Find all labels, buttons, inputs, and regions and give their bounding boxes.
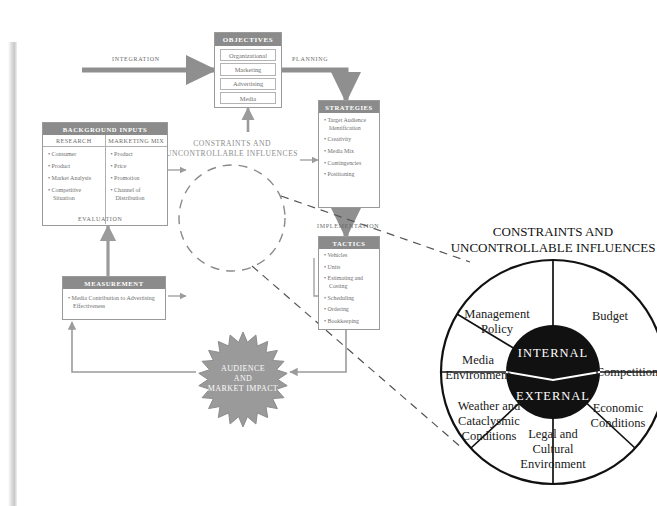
tactics-item: Units	[323, 264, 377, 272]
marketing-mix-item: Promotion	[110, 174, 166, 182]
objectives-header: OBJECTIVES	[215, 33, 281, 46]
research-item: Market Analysis	[47, 174, 103, 182]
marketing-mix-item: Price	[110, 162, 166, 170]
strategies-item: Contingencies	[323, 160, 377, 168]
starburst-line3: MARKET IMPACT	[208, 384, 278, 393]
starburst-line1: AUDIENCE	[221, 364, 265, 373]
connector-label-planning: PLANNING	[292, 56, 328, 62]
tactics-header: TACTICS	[319, 237, 379, 249]
objectives-item-organizational[interactable]: Organizational	[220, 49, 276, 61]
marketing-mix-item: Channel of Distribution	[110, 186, 166, 202]
tactics-item: Scheduling	[323, 295, 377, 303]
tactics-item: Ordering	[323, 306, 377, 314]
research-item: Consumer	[47, 150, 103, 158]
connector-label-integration: INTEGRATION	[112, 56, 160, 62]
tactics-item: Bookkeeping	[323, 318, 377, 326]
measurement-header: MEASUREMENT	[63, 277, 165, 289]
research-item: Competitive Situation	[47, 186, 103, 202]
starburst-line2: AND	[234, 374, 253, 383]
measurement-box[interactable]: MEASUREMENT Media Contribution to Advert…	[62, 276, 166, 320]
background-inputs-box[interactable]: BACKGROUND INPUTS RESEARCH Consumer Prod…	[42, 122, 168, 226]
objectives-box[interactable]: OBJECTIVES Organizational Marketing Adve…	[214, 32, 282, 108]
background-inputs-header: BACKGROUND INPUTS	[43, 123, 167, 135]
strategies-box[interactable]: STRATEGIES Target Audience Identificatio…	[318, 100, 380, 208]
tactics-item: Estimating and Costing	[323, 275, 377, 290]
connector-label-implementation: IMPLEMENTATION	[317, 223, 379, 229]
strategies-item: Positioning	[323, 171, 377, 179]
objectives-item-advertising[interactable]: Advertising	[220, 78, 276, 90]
measurement-item: Media Contribution to Advertising Effect…	[67, 294, 163, 310]
strategies-item: Media Mix	[323, 148, 377, 156]
strategies-item: Creativity	[323, 136, 377, 144]
constraints-circle-line2: UNCONTROLLABLE INFLUENCES	[166, 149, 298, 158]
marketing-mix-column-header: MARKETING MIX	[106, 135, 168, 147]
tactics-item: Vehicles	[323, 252, 377, 260]
marketing-mix-item: Product	[110, 150, 166, 158]
connector-label-evaluation: EVALUATION	[78, 216, 123, 222]
tactics-box[interactable]: TACTICS Vehicles Units Estimating and Co…	[318, 236, 380, 330]
strategies-item: Target Audience Identification	[323, 117, 377, 132]
constraints-circle-line1: CONSTRAINTS AND	[193, 139, 271, 148]
objectives-item-media[interactable]: Media	[220, 92, 276, 104]
strategies-header: STRATEGIES	[319, 101, 379, 113]
research-item: Product	[47, 162, 103, 170]
research-column-header: RESEARCH	[43, 135, 105, 147]
objectives-item-marketing[interactable]: Marketing	[220, 63, 276, 75]
